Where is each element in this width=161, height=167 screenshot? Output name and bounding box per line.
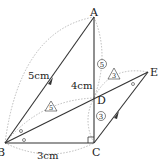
point-e-label: E: [150, 66, 158, 79]
length-bc-label: 3cm: [37, 150, 59, 161]
point-a-label: A: [89, 6, 99, 19]
ratio-bd-label: 5: [49, 104, 53, 112]
ratio-ad-label: 5: [100, 61, 104, 69]
length-ac-label: 4cm: [71, 80, 93, 91]
angle-mark-icon: [23, 139, 26, 142]
point-b-label: B: [0, 146, 5, 159]
ratio-de-label: 3: [112, 72, 116, 80]
point-d-label: D: [97, 94, 106, 107]
length-ab-label: 5cm: [28, 70, 50, 81]
arc-dc: [88, 98, 94, 143]
angle-mark-icon: [132, 83, 135, 86]
angle-mark-icon: [20, 130, 23, 133]
ratio-dc-label: 3: [99, 113, 103, 121]
arc-ad: [94, 17, 102, 98]
segment-ce: [94, 72, 148, 143]
geometry-diagram: 5 3 5 3 A B C D E 5cm 4cm 3cm: [0, 0, 161, 167]
point-c-label: C: [92, 146, 100, 159]
